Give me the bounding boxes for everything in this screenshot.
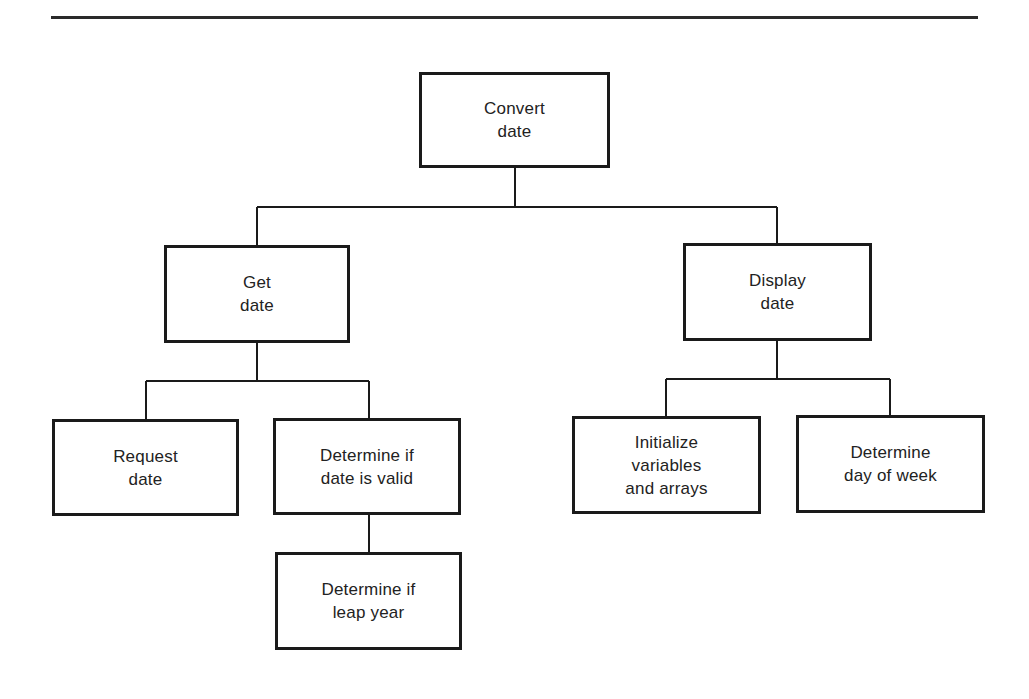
node-label: Determine day of week xyxy=(844,441,937,487)
edge-getdate-to-children xyxy=(146,342,369,419)
edge-displaydate-to-children xyxy=(666,340,890,416)
node-day-of-week: Determine day of week xyxy=(796,415,985,513)
node-label: Display date xyxy=(749,269,806,315)
node-display-date: Display date xyxy=(683,243,872,341)
node-get-date: Get date xyxy=(164,245,350,343)
node-request-date: Request date xyxy=(52,419,239,516)
node-leap-year: Determine if leap year xyxy=(275,552,462,650)
node-label: Determine if leap year xyxy=(321,578,415,624)
edge-convert-to-children xyxy=(257,167,777,245)
node-label: Convert date xyxy=(484,97,545,143)
node-label: Get date xyxy=(240,271,274,317)
node-label: Determine if date is valid xyxy=(320,444,414,490)
node-initialize-variables: Initialize variables and arrays xyxy=(572,416,761,514)
node-label: Initialize variables and arrays xyxy=(625,431,707,500)
node-convert-date: Convert date xyxy=(419,72,610,168)
node-label: Request date xyxy=(113,445,178,491)
node-validate-date: Determine if date is valid xyxy=(273,418,461,515)
